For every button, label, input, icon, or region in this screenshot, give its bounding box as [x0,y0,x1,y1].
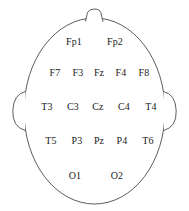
electrode-c4: C4 [118,102,130,112]
electrode-t4: T4 [145,102,156,112]
electrode-cz: Cz [92,102,103,112]
electrode-f4: F4 [116,68,127,78]
electrode-fp1: Fp1 [66,37,82,47]
electrode-t5: T5 [45,136,56,146]
electrode-o2: O2 [111,171,123,181]
electrode-f7: F7 [50,68,61,78]
electrode-c3: C3 [67,102,79,112]
electrode-t3: T3 [41,102,52,112]
electrode-fp2: Fp2 [107,37,123,47]
electrode-fz: Fz [94,68,104,78]
electrode-f8: F8 [139,68,150,78]
electrode-f3: F3 [73,68,84,78]
electrode-o1: O1 [69,171,81,181]
electrode-p3: P3 [72,136,83,146]
electrode-label-layer: Fp1 Fp2 F7 F3 Fz F4 F8 T3 C3 Cz C4 T4 T5… [0,0,189,211]
eeg-electrode-diagram: Fp1 Fp2 F7 F3 Fz F4 F8 T3 C3 Cz C4 T4 T5… [0,0,189,211]
electrode-t6: T6 [142,136,153,146]
electrode-pz: Pz [94,136,104,146]
electrode-p4: P4 [117,136,128,146]
